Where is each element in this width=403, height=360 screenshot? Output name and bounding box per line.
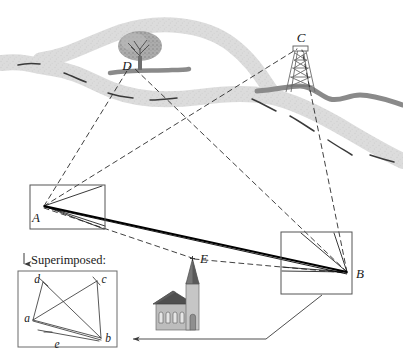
tower-lattice [288,53,313,86]
label-sup-d: d [34,273,40,285]
church-landmark-e [153,256,199,330]
superimposed-caption: Superimposed: [24,253,106,267]
label-sup-c: c [101,273,106,285]
label-c: C [297,30,306,45]
solid-a-to-d-ray [44,186,102,206]
label-d: D [121,58,132,73]
tree-trunk [138,56,142,70]
church-spire-tip [190,256,195,261]
superimposed-network [33,277,101,341]
label-e: E [199,251,208,266]
label-sup-a: a [24,312,30,324]
sightline-b-to-c [302,50,347,272]
label-b: B [356,266,364,281]
seg-a-d [33,282,43,320]
label-sup-e: e [54,338,59,350]
river [2,25,403,162]
triangulation-figure: A B C D E Superimposed: a b c d e [0,0,403,360]
figure-root: A B C D E Superimposed: a b c d e [0,0,403,360]
tower-top-platform [293,46,308,51]
station-box-b[interactable] [281,232,352,294]
seg-c-b [97,281,101,338]
seg-d-tick [39,278,48,286]
seg-a-c [33,281,97,320]
seg-a-b-second [33,321,101,340]
sightline-e-to-b [194,259,347,273]
superimposed-label: Superimposed: [31,253,106,267]
river-main-channel [2,62,403,161]
church-door [190,314,196,330]
seg-c-tick [93,277,100,285]
label-sup-b: b [105,332,111,344]
seg-d-b [43,282,101,338]
label-a: A [31,210,40,225]
